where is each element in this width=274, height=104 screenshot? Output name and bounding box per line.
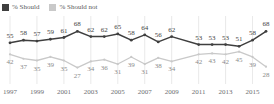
data-point	[157, 41, 160, 44]
data-point	[211, 43, 214, 46]
data-point	[63, 59, 65, 61]
data-point	[130, 39, 133, 42]
data-label: 56	[155, 31, 162, 38]
data-point	[238, 51, 240, 53]
data-label: 65	[114, 23, 121, 30]
data-point	[76, 30, 79, 33]
data-label: 62	[87, 26, 94, 33]
data-label: 31	[114, 69, 121, 76]
data-label: 53	[195, 34, 202, 41]
data-point	[265, 66, 267, 68]
legend-swatch-should	[2, 4, 9, 11]
x-tick-label: 2011	[192, 88, 206, 96]
x-tick-label: 2013	[219, 88, 233, 96]
data-label: 39	[249, 61, 256, 68]
data-point	[90, 60, 92, 62]
data-point	[76, 66, 78, 68]
data-point	[144, 63, 146, 65]
plot-area: 5558575961686262655864566253535351586842…	[0, 16, 274, 84]
data-label: 35	[60, 65, 67, 72]
data-point	[143, 33, 146, 36]
data-label: 36	[101, 64, 108, 71]
data-point	[22, 58, 24, 60]
x-tick-label: 1999	[30, 88, 44, 96]
data-label: 58	[249, 30, 256, 37]
data-label: 58	[128, 30, 135, 37]
legend-item-should: % Should	[2, 3, 39, 11]
data-label: 57	[33, 31, 40, 38]
data-label: 42	[7, 59, 14, 66]
data-label: 42	[195, 59, 202, 66]
data-point	[89, 35, 92, 38]
legend-label-should-not: % Should not	[59, 3, 97, 11]
data-label: 27	[74, 72, 81, 79]
x-tick-label: 2003	[84, 88, 98, 96]
data-point	[198, 53, 200, 55]
data-point	[224, 53, 226, 55]
x-tick-label: 2009	[165, 88, 179, 96]
data-label: 35	[33, 65, 40, 72]
data-point	[9, 41, 12, 44]
data-point	[171, 60, 173, 62]
data-point	[197, 43, 200, 46]
data-point	[36, 59, 38, 61]
data-label: 61	[60, 27, 67, 34]
data-label: 28	[263, 71, 270, 78]
data-point	[251, 56, 253, 58]
line-chart: % Should % Should not 555857596168626265…	[0, 0, 274, 104]
data-label: 64	[141, 24, 148, 31]
gridlines	[10, 16, 253, 84]
chart-legend: % Should % Should not	[2, 1, 98, 13]
data-label: 37	[20, 63, 27, 70]
data-point	[211, 52, 213, 54]
data-label: 55	[7, 32, 14, 39]
legend-label-should: % Should	[12, 3, 39, 11]
x-tick-label: 2015	[246, 88, 260, 96]
data-point	[103, 35, 106, 38]
data-point	[62, 36, 65, 39]
data-label: 34	[168, 66, 175, 73]
data-point	[117, 63, 119, 65]
data-point	[49, 56, 51, 58]
data-point	[22, 39, 25, 42]
data-point	[130, 56, 132, 58]
data-point	[251, 39, 254, 42]
data-label: 43	[209, 58, 216, 65]
data-label: 68	[263, 21, 270, 28]
data-label: 38	[155, 62, 162, 69]
data-label: 59	[47, 29, 54, 36]
data-label: 45	[236, 56, 243, 63]
x-tick-label: 2007	[138, 88, 152, 96]
data-point	[9, 53, 11, 55]
legend-swatch-should-not	[49, 4, 56, 11]
data-label: 39	[47, 61, 54, 68]
data-label: 53	[222, 34, 229, 41]
data-label: 42	[222, 59, 229, 66]
data-point	[170, 35, 173, 38]
data-point	[103, 59, 105, 61]
x-tick-label: 1997	[3, 88, 17, 96]
data-point	[157, 57, 159, 59]
plot-svg	[0, 16, 274, 84]
data-point	[265, 30, 268, 33]
data-label: 68	[74, 21, 81, 28]
data-label: 39	[128, 61, 135, 68]
data-point	[49, 38, 52, 41]
data-label: 58	[20, 30, 27, 37]
x-tick-label: 2001	[57, 88, 71, 96]
data-label: 31	[141, 69, 148, 76]
data-label: 62	[101, 26, 108, 33]
x-axis: 1997199920012003200520072009201120132015	[0, 86, 274, 102]
x-tick-label: 2005	[111, 88, 125, 96]
data-label: 51	[236, 36, 243, 43]
data-label: 62	[168, 26, 175, 33]
data-point	[238, 45, 241, 48]
data-label: 53	[209, 34, 216, 41]
data-point	[116, 33, 119, 36]
data-point	[224, 43, 227, 46]
data-label: 34	[87, 66, 94, 73]
data-point	[36, 40, 39, 43]
legend-item-should-not: % Should not	[49, 3, 97, 11]
